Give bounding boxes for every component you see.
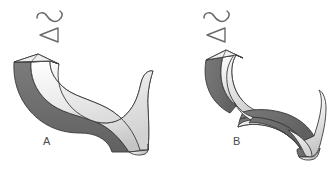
s-curve-icon: [37, 11, 62, 21]
figure-label-a: A: [43, 136, 51, 147]
symbol-group-b: [201, 8, 235, 44]
figure-b-ribbon: [205, 50, 326, 160]
figure-label-b: B: [233, 136, 241, 147]
figure-a-ribbon: [14, 54, 153, 155]
symbol-group-a: [34, 8, 68, 44]
left-triangle-icon: [40, 28, 58, 42]
left-triangle-icon: [207, 28, 225, 42]
s-curve-icon: [204, 11, 229, 21]
